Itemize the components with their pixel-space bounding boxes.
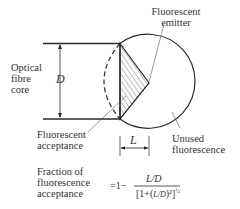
- formula-lhs: Fraction of fluorescence acceptance: [37, 166, 90, 199]
- diameter-symbol: D: [56, 74, 65, 85]
- acceptance-cone: [120, 44, 149, 120]
- formula-denominator: [1+(L/D)²]½: [136, 188, 180, 199]
- length-symbol: L: [130, 135, 137, 146]
- formula-equals: =1−: [110, 180, 126, 191]
- emitter-leader: [149, 24, 164, 82]
- dashed-arc: [104, 44, 120, 120]
- label-emitter: Fluorescent emitter: [144, 6, 208, 28]
- unused-leader: [172, 112, 180, 128]
- label-acceptance: Fluorescent acceptance: [37, 129, 86, 151]
- label-unused: Unused fluorescence: [172, 133, 225, 155]
- formula-numerator: L/D: [146, 173, 162, 184]
- label-core: Optical fibre core: [11, 62, 42, 95]
- diagram-canvas: [0, 0, 240, 209]
